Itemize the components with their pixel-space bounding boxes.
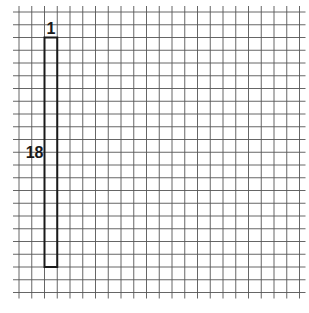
height-label: 18 [26,144,44,161]
grid-canvas: 1 18 [0,0,309,313]
grid-diagram: 1 18 [0,0,309,313]
width-label: 1 [46,20,55,37]
